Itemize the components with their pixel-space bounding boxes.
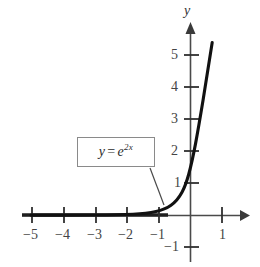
exponential-function-graph: y −5 −4 −3 −2 −1 1 5 4 3 2 1 −1 y=e2x [0,0,260,267]
y-tick-label-1: 1 [174,176,181,190]
equation-operator: = [105,144,117,159]
y-tick-label-3: 3 [171,112,178,126]
equation-text: y=e2x [99,144,133,160]
y-tick-label-5: 5 [171,48,178,62]
y-tick-label-2: 2 [171,144,178,158]
y-axis-arrow-icon [186,22,196,34]
annotation-leader-line [150,168,164,205]
equation-exponent: 2x [124,142,133,152]
x-tick-label--3: −3 [87,228,102,242]
y-tick-label-4: 4 [171,80,178,94]
x-tick-label--4: −4 [55,228,70,242]
x-tick-label--5: −5 [23,228,38,242]
x-tick-label--1: −1 [150,228,165,242]
y-tick-label--1: −1 [164,240,179,254]
equation-annotation-box: y=e2x [77,137,155,167]
y-axis-label: y [184,4,190,18]
x-tick-label-1: 1 [219,228,226,242]
x-axis-arrow-icon [240,210,250,221]
y-axis-ticks [184,55,199,247]
x-tick-label--2: −2 [118,228,133,242]
exponential-curve [31,43,212,216]
